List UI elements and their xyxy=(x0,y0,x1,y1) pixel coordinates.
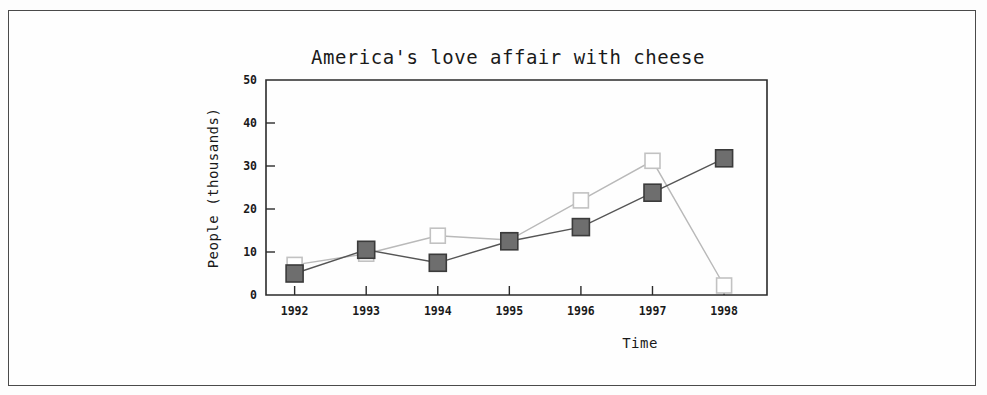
x-tick-label: 1996 xyxy=(567,304,595,318)
series-line-series-open xyxy=(295,161,724,286)
x-axis-label: Time xyxy=(622,335,658,351)
x-axis-ticks: 1992199319941995199619971998 xyxy=(281,286,738,318)
x-tick-label: 1998 xyxy=(710,304,738,318)
line-chart: America's love affair with cheese People… xyxy=(0,0,987,395)
y-axis-label: People (thousands) xyxy=(205,108,221,269)
data-point-series-open-1996 xyxy=(573,193,588,208)
y-tick-label: 0 xyxy=(250,288,257,302)
y-tick-label: 10 xyxy=(243,245,257,259)
data-point-series-filled-1997 xyxy=(644,184,661,201)
series-layer xyxy=(286,150,732,293)
x-tick-label: 1995 xyxy=(495,304,523,318)
y-tick-label: 40 xyxy=(243,116,257,130)
data-point-series-filled-1996 xyxy=(572,219,589,236)
plot-frame xyxy=(266,80,767,295)
data-point-series-open-1997 xyxy=(645,153,660,168)
data-point-series-filled-1995 xyxy=(501,233,518,250)
y-tick-label: 50 xyxy=(243,73,257,87)
y-axis-ticks: 01020304050 xyxy=(243,73,275,302)
data-point-series-filled-1994 xyxy=(429,254,446,271)
data-point-series-filled-1992 xyxy=(286,265,303,282)
data-point-series-filled-1998 xyxy=(716,150,733,167)
data-point-series-open-1998 xyxy=(717,278,732,293)
y-tick-label: 20 xyxy=(243,202,257,216)
y-tick-label: 30 xyxy=(243,159,257,173)
data-point-series-filled-1993 xyxy=(358,241,375,258)
data-point-series-open-1994 xyxy=(430,228,445,243)
x-tick-label: 1997 xyxy=(639,304,667,318)
x-tick-label: 1992 xyxy=(281,304,309,318)
x-tick-label: 1993 xyxy=(352,304,380,318)
chart-title: America's love affair with cheese xyxy=(311,46,705,68)
x-tick-label: 1994 xyxy=(424,304,452,318)
screenshot-page: America's love affair with cheese People… xyxy=(0,0,987,395)
